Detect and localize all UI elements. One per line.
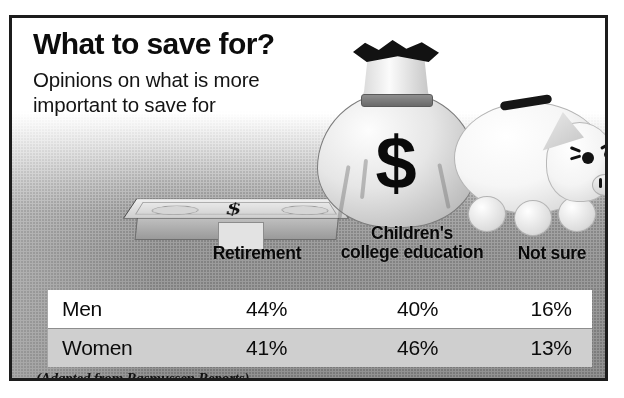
cell-men-college: 40%	[325, 297, 510, 321]
column-header-not-sure: Not sure	[504, 244, 600, 263]
cell-men-retirement: 44%	[208, 297, 325, 321]
column-header-college-line-2: college education	[317, 243, 507, 262]
row-label-women: Women	[48, 336, 208, 360]
infographic-poster: $ $	[0, 0, 624, 398]
cell-women-college: 46%	[325, 336, 510, 360]
table-row: Women 41% 46% 13%	[48, 329, 592, 367]
column-header-retirement: Retirement	[197, 244, 317, 263]
cell-men-not-sure: 16%	[510, 297, 592, 321]
row-label-men: Men	[48, 297, 208, 321]
column-header-college: Children's college education	[317, 224, 507, 262]
cell-women-retirement: 41%	[208, 336, 325, 360]
poster-frame: $ $	[9, 15, 608, 381]
piggy-bank-nostril	[607, 178, 608, 188]
table-row: Men 44% 40% 16%	[48, 290, 592, 329]
data-table: Retirement Children's college education …	[12, 18, 605, 378]
source-attribution: (Adapted from Rasmussen Reports)	[36, 370, 249, 381]
cell-women-not-sure: 13%	[510, 336, 592, 360]
column-header-college-line-1: Children's	[317, 224, 507, 243]
